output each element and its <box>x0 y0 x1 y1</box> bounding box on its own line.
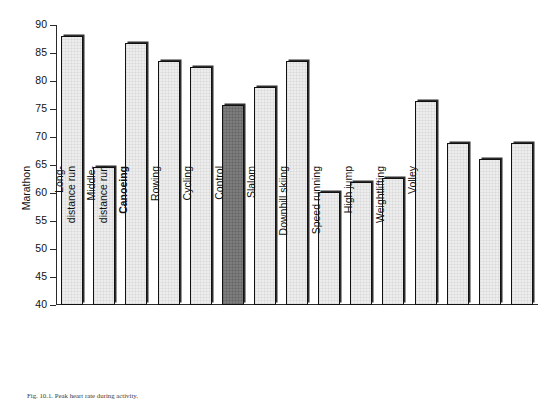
x-axis-label-7: Cycling <box>182 166 194 286</box>
y-tick-label-70: 70 <box>35 130 47 143</box>
bar-high-jump[interactable] <box>447 143 469 305</box>
x-axis-label-13: Weightlifting <box>375 166 387 286</box>
y-tick-40: 40 <box>50 305 56 306</box>
x-axis-label-6: Rowing <box>150 166 162 286</box>
bar-volley[interactable] <box>511 143 533 305</box>
x-axis-label-10: Downhill skiing <box>278 166 290 286</box>
x-axis-label-12: High jump <box>343 166 355 286</box>
x-axis-label-8: Control <box>214 166 226 286</box>
y-tick-label-80: 80 <box>35 74 47 87</box>
x-axis-label-11: Speed running <box>311 166 323 286</box>
y-tick-label-65: 65 <box>35 158 47 171</box>
y-tick-85: 85 <box>50 53 56 54</box>
y-tick-label-50: 50 <box>35 242 47 255</box>
y-tick-70: 70 <box>50 137 56 138</box>
y-tick-label-45: 45 <box>35 270 47 283</box>
y-tick-90: 90 <box>50 25 56 26</box>
y-tick-label-55: 55 <box>35 214 47 227</box>
y-tick-75: 75 <box>50 109 56 110</box>
x-axis-label-1: Walking <box>0 166 1 286</box>
y-tick-label-90: 90 <box>35 18 47 31</box>
y-tick-label-60: 60 <box>35 186 47 199</box>
y-tick-label-40: 40 <box>35 298 47 311</box>
figure-caption: Fig. 10.1. Peak heart rate during activi… <box>27 392 527 401</box>
bar-weightlifting[interactable] <box>479 159 501 305</box>
x-axis-label-5: Canoeing <box>118 166 130 286</box>
figure-bar-chart: LV volume · BSA (ml·m−2) 908580757065605… <box>0 0 547 401</box>
x-axis-label-14: Volley <box>407 166 419 286</box>
x-axis-label-2: Marathon <box>21 166 33 286</box>
y-tick-80: 80 <box>50 81 56 82</box>
x-axis-label-4: Middle- distance run <box>86 166 109 286</box>
y-tick-label-85: 85 <box>35 46 47 59</box>
x-axis-label-3: Long- distance run <box>54 166 77 286</box>
x-axis-label-9: Slalom <box>246 166 258 286</box>
y-tick-label-75: 75 <box>35 102 47 115</box>
